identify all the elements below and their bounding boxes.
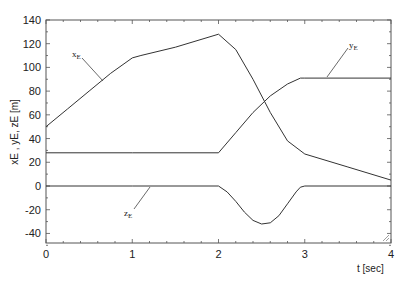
yE-label: yE — [349, 40, 358, 52]
y-axis-labels: -40-20020406080100120140 — [23, 14, 41, 239]
series-lines — [46, 34, 391, 224]
series-x_E — [46, 34, 391, 180]
x-axis-title: t [sec] — [357, 263, 384, 274]
series-z_E — [46, 186, 391, 224]
yE-leader — [327, 48, 348, 77]
y-tick-label: -20 — [25, 204, 41, 216]
y-axis-title: xE , yE, zE [m] — [9, 99, 20, 165]
y-tick-label: 100 — [23, 61, 41, 73]
corner-mark-icon — [383, 235, 389, 241]
xE-label: xE — [72, 49, 81, 61]
x-tick-label: 1 — [129, 248, 135, 260]
line-chart: 01234 -40-20020406080100120140 xE yE zE … — [0, 0, 406, 282]
y-tick-label: 80 — [29, 85, 41, 97]
label-leaders — [82, 48, 348, 209]
y-axis-ticks — [46, 20, 391, 245]
x-tick-label: 3 — [302, 248, 308, 260]
zE-label: zE — [124, 208, 132, 220]
y-tick-label: -40 — [25, 227, 41, 239]
series-y_E — [46, 78, 391, 153]
x-tick-label: 0 — [43, 248, 49, 260]
zE-leader — [134, 187, 150, 209]
y-tick-label: 140 — [23, 14, 41, 26]
plot-frame — [46, 20, 391, 243]
y-tick-label: 40 — [29, 133, 41, 145]
x-tick-label: 2 — [215, 248, 221, 260]
x-axis-ticks — [46, 20, 391, 243]
y-tick-label: 20 — [29, 156, 41, 168]
y-tick-label: 0 — [35, 180, 41, 192]
y-tick-label: 120 — [23, 38, 41, 50]
y-tick-label: 60 — [29, 109, 41, 121]
xE-leader — [82, 58, 103, 81]
x-tick-label: 4 — [388, 248, 394, 260]
x-axis-labels: 01234 — [43, 248, 394, 260]
